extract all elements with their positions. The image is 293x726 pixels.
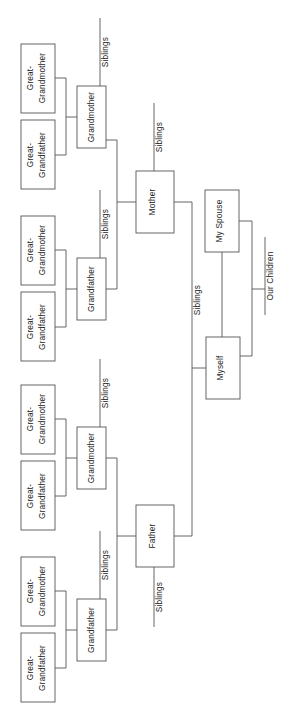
link-ggf1-to-gm1	[55, 117, 66, 155]
edge-label-siblings-mother: Siblings	[154, 122, 164, 152]
node-great-grandfather-2[interactable]: Great- Grandfather	[21, 292, 55, 361]
link-ggf4-to-gf2	[55, 630, 66, 668]
node-great-grandfather-4[interactable]: Great- Grandfather	[21, 633, 55, 702]
node-label: Father	[147, 523, 157, 548]
node-great-grandmother-2[interactable]: Great- Grandmother	[21, 216, 55, 285]
edge-label-our-children: Our Children	[265, 251, 275, 300]
link-gm2-to-father	[106, 458, 136, 536]
link-ggm2-to-gf1	[55, 250, 77, 289]
node-label-line1: Great-	[25, 315, 35, 340]
node-label-line2: Grandfather	[37, 473, 47, 519]
edge-label-siblings-gf1: Siblings	[100, 209, 110, 239]
link-ggf3-to-gm2	[55, 458, 66, 496]
node-label-line2: Grandmother	[37, 225, 47, 276]
node-father[interactable]: Father	[136, 505, 174, 567]
node-label-line2: Grandfather	[37, 645, 47, 691]
node-label-line1: Great-	[25, 656, 35, 681]
link-ggm1-to-gm1	[55, 78, 77, 117]
node-label-line2: Grandfather	[37, 304, 47, 350]
edge-label-siblings-father: Siblings	[154, 582, 164, 612]
node-mother[interactable]: Mother	[136, 171, 174, 233]
node-label: Grandmother	[86, 433, 96, 484]
node-great-grandfather-3[interactable]: Great- Grandfather	[21, 461, 55, 530]
edge-label-siblings-gm1: Siblings	[100, 37, 110, 67]
family-tree-diagram: Great- Grandmother Great- Grandfather Gr…	[0, 0, 293, 726]
node-great-grandmother-1[interactable]: Great- Grandmother	[21, 44, 55, 113]
node-grandmother-maternal[interactable]: Grandmother	[77, 86, 106, 148]
node-grandmother-paternal[interactable]: Grandmother	[77, 427, 106, 489]
node-grandfather-paternal[interactable]: Grandfather	[77, 599, 106, 661]
link-marriage-bracket	[239, 221, 252, 356]
link-ggf2-to-gf1	[55, 289, 66, 327]
node-label-line1: Great-	[25, 66, 35, 91]
node-great-grandmother-4[interactable]: Great- Grandmother	[21, 557, 55, 626]
node-my-spouse[interactable]: My Spouse	[205, 190, 239, 252]
node-label-line1: Great-	[25, 579, 35, 604]
node-label: Mother	[147, 189, 157, 216]
edge-label-siblings-gm2: Siblings	[100, 378, 110, 408]
node-label-line2: Grandmother	[37, 53, 47, 104]
link-ggm3-to-gm2	[55, 419, 77, 458]
family-tree-svg: Great- Grandmother Great- Grandfather Gr…	[0, 0, 293, 726]
node-label-line2: Grandfather	[37, 132, 47, 178]
node-label-line1: Great-	[25, 484, 35, 509]
node-label-line1: Great-	[25, 143, 35, 168]
link-gm1-to-mother	[106, 140, 136, 202]
edge-label-siblings-myself: Siblings	[192, 285, 202, 315]
node-label-line2: Grandmother	[37, 566, 47, 617]
node-great-grandfather-1[interactable]: Great- Grandfather	[21, 120, 55, 189]
link-ggm4-to-gf2	[55, 591, 77, 630]
node-label: Grandfather	[86, 266, 96, 312]
node-great-grandmother-3[interactable]: Great- Grandmother	[21, 385, 55, 454]
node-grandfather-maternal[interactable]: Grandfather	[77, 258, 106, 320]
node-label: Grandfather	[86, 607, 96, 653]
link-father-to-myself	[174, 368, 192, 536]
node-label-line1: Great-	[25, 238, 35, 263]
node-myself[interactable]: Myself	[206, 337, 240, 399]
node-label-line1: Great-	[25, 407, 35, 432]
node-label: Myself	[215, 355, 225, 380]
edge-label-siblings-gf2: Siblings	[100, 550, 110, 580]
node-label: My Spouse	[214, 199, 224, 242]
node-label-line2: Grandmother	[37, 394, 47, 445]
node-label: Grandmother	[86, 92, 96, 143]
